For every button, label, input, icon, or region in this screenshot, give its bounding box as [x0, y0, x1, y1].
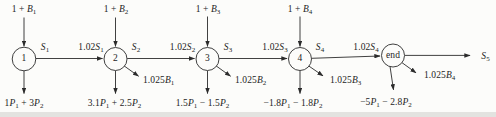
- arrow-repay-4: [402, 62, 417, 73]
- label-payout-2: 3.1P1 + 2.5P2: [88, 99, 142, 109]
- figure-canvas: 1 2 3 4 end 1 + B1 1 + B2 1 + B3 1 + B4 …: [0, 0, 496, 117]
- label-s5: S5: [481, 52, 489, 62]
- scan-page-edge: [0, 112, 496, 117]
- label-repay-b1: 1.025B1: [143, 76, 174, 86]
- arrow-repay-3: [309, 66, 324, 76]
- label-repay-b2: 1.025B2: [235, 76, 266, 86]
- arrow-repay-2: [216, 66, 231, 76]
- label-repay-b4: 1.025B4: [424, 71, 455, 81]
- arrow-flow-4-end: [312, 56, 380, 58]
- label-repay-b3: 1.025B3: [330, 76, 361, 86]
- node-3-label: 3: [205, 54, 210, 64]
- node-1-label: 1: [22, 54, 27, 64]
- node-end-label: end: [386, 51, 400, 61]
- label-s3: S3: [224, 43, 232, 53]
- label-inflow-2: 1 + B2: [104, 5, 129, 15]
- label-grown-s1: 1.02S1: [78, 43, 103, 53]
- label-payout-4: −1.8P1 − 1.8P2: [263, 99, 322, 109]
- label-s2: S2: [132, 43, 140, 53]
- label-inflow-3: 1 + B3: [196, 5, 221, 15]
- label-grown-s2: 1.02S2: [170, 43, 195, 53]
- label-inflow-4: 1 + B4: [288, 5, 313, 15]
- arrow-repay-1: [124, 66, 139, 76]
- arrow-payout-end: [390, 66, 394, 90]
- label-payout-end: −5P1 − 2.8P2: [360, 98, 412, 108]
- node-4-label: 4: [298, 54, 303, 64]
- label-inflow-1: 1 + B1: [12, 5, 37, 15]
- label-payout-3: 1.5P1 − 1.5P2: [176, 99, 230, 109]
- node-2-label: 2: [113, 54, 118, 64]
- diagram-canvas: [0, 0, 496, 117]
- label-s1: S1: [41, 43, 49, 53]
- label-grown-s3: 1.02S3: [262, 43, 287, 53]
- label-grown-s4: 1.02S4: [353, 43, 378, 53]
- label-s4: S4: [316, 43, 324, 53]
- label-payout-1: 1P1 + 3P2: [5, 99, 44, 109]
